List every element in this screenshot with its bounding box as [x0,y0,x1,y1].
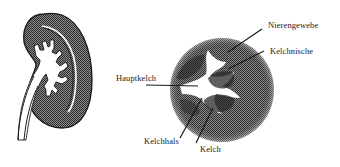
calyx-detail [146,29,274,143]
label-hauptkelch: Hauptkelch [116,73,156,83]
label-kelchhals: Kelchhals [144,136,179,146]
label-kelch: Kelch [200,144,221,154]
label-kelchnische: Kelchnische [270,46,313,56]
label-nierengewebe: Nierengewebe [268,20,318,30]
kidney-overview [18,13,92,140]
